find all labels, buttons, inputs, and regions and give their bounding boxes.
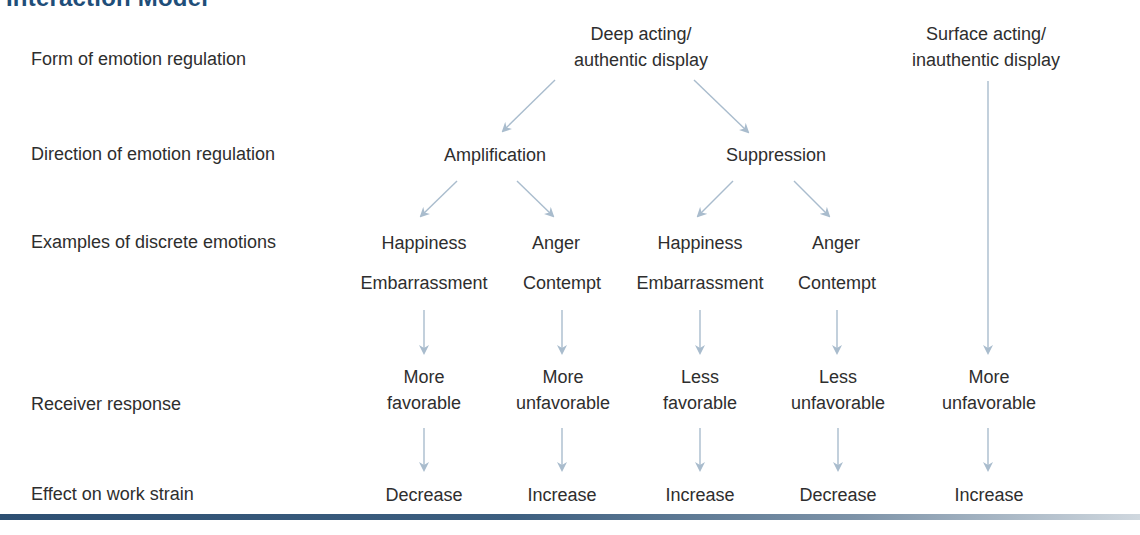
bottom-rule xyxy=(0,514,1140,520)
connector-arrows xyxy=(0,0,1140,535)
arrow-sup-to-anger xyxy=(794,181,829,216)
arrow-amp-to-happiness xyxy=(421,181,457,216)
arrow-deep-to-suppression xyxy=(694,80,748,132)
arrow-sup-to-happiness xyxy=(698,181,733,216)
arrow-deep-to-amplification xyxy=(503,80,555,131)
arrow-amp-to-anger xyxy=(517,181,553,216)
